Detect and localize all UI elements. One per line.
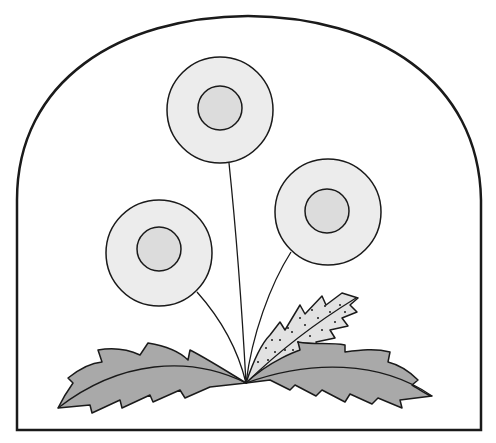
flower-left [106,200,212,306]
flower-right [275,159,381,265]
flower-top [167,57,273,163]
dandelion-illustration [0,0,496,443]
